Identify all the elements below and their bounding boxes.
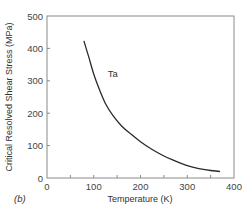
y-tick-label: 500: [27, 11, 43, 22]
y-tick-label: 0: [38, 173, 43, 184]
chart: 0100200300400500 0100200300400 Ta Critic…: [0, 0, 251, 212]
y-tick-label: 200: [27, 108, 43, 119]
x-tick-label: 100: [86, 181, 102, 192]
y-tick-label: 100: [27, 140, 43, 151]
series-group: Ta: [84, 41, 220, 172]
x-tick-label: 300: [179, 181, 195, 192]
series-label: Ta: [108, 68, 119, 79]
y-tick-label: 400: [27, 43, 43, 54]
plot-frame: [47, 16, 234, 178]
x-tick-label: 400: [226, 181, 242, 192]
y-tick-label: 300: [27, 75, 43, 86]
x-tick-label: 0: [44, 181, 49, 192]
x-tick-label: 200: [133, 181, 149, 192]
x-axis-label: Temperature (K): [107, 194, 172, 204]
y-axis-label: Critical Resolved Shear Stress (MPa): [4, 22, 14, 171]
series-line-ta: [84, 41, 220, 172]
panel-label: (b): [14, 193, 26, 204]
